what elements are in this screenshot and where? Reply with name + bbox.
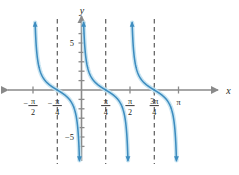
- x-tick-label: π4−: [48, 97, 62, 117]
- x-axis-label: x: [225, 85, 231, 96]
- x-tick-denominator: 4: [55, 108, 59, 117]
- x-tick-label: π: [176, 98, 181, 107]
- x-tick-denominator: 2: [128, 108, 132, 117]
- x-tick-denominator: 4: [104, 108, 108, 117]
- curve-glow: [106, 90, 128, 160]
- x-tick-numerator: π: [104, 97, 109, 106]
- curve-glow: [57, 90, 79, 160]
- x-tick-label: π2: [125, 97, 134, 117]
- axes-group: [8, 16, 218, 161]
- x-tick-label: π2−: [23, 97, 37, 117]
- x-tick-numerator: 3π: [150, 97, 159, 106]
- graph-canvas: yx5−5π2−π4−π4π23π4π: [0, 0, 239, 175]
- x-tick-minus-sign: −: [48, 99, 53, 108]
- x-tick-minus-sign: −: [23, 99, 28, 108]
- curve-glow: [84, 23, 106, 90]
- y-axis-label: y: [79, 5, 85, 16]
- x-tick-numerator: π: [55, 97, 60, 106]
- y-tick-label: −5: [65, 132, 74, 142]
- y-tick-label: 5: [70, 38, 74, 48]
- x-tick-plain-label: π: [176, 98, 181, 107]
- x-tick-label: π4: [101, 97, 110, 117]
- cotangent-figure: yx5−5π2−π4−π4π23π4π: [0, 0, 239, 175]
- x-tick-denominator: 4: [152, 108, 156, 117]
- curve-glow: [35, 23, 57, 90]
- curve-glow: [132, 23, 154, 90]
- x-tick-numerator: π: [128, 97, 133, 106]
- x-tick-label: 3π4: [150, 97, 160, 117]
- x-tick-denominator: 2: [31, 108, 35, 117]
- x-tick-numerator: π: [31, 97, 36, 106]
